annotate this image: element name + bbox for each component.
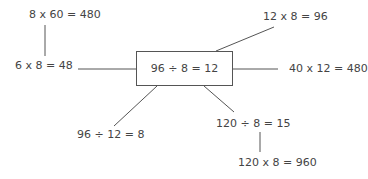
connector-center-bottomright	[204, 86, 234, 112]
node-bottom-right: 120 ÷ 8 = 15	[216, 117, 290, 130]
center-equation-box: 96 ÷ 8 = 12	[136, 51, 233, 86]
center-equation: 96 ÷ 8 = 12	[151, 62, 218, 75]
node-top-right: 12 x 8 = 96	[263, 10, 328, 23]
node-left: 6 x 8 = 48	[15, 59, 73, 72]
node-top-left: 8 x 60 = 480	[29, 8, 101, 21]
node-bottom-left: 96 ÷ 12 = 8	[77, 128, 144, 141]
node-right: 40 x 12 = 480	[289, 62, 368, 75]
connector-center-topright	[216, 27, 274, 51]
node-bottom-right-child: 120 x 8 = 960	[238, 156, 317, 169]
connector-center-bottomleft	[114, 86, 157, 126]
